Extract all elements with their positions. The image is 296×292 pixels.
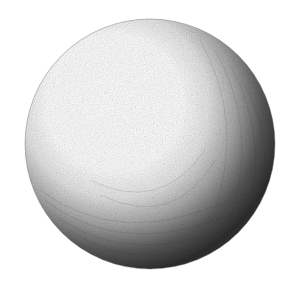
sphere-body [25, 19, 275, 269]
sphere-sketch [0, 0, 296, 292]
drawing-canvas [0, 0, 296, 292]
